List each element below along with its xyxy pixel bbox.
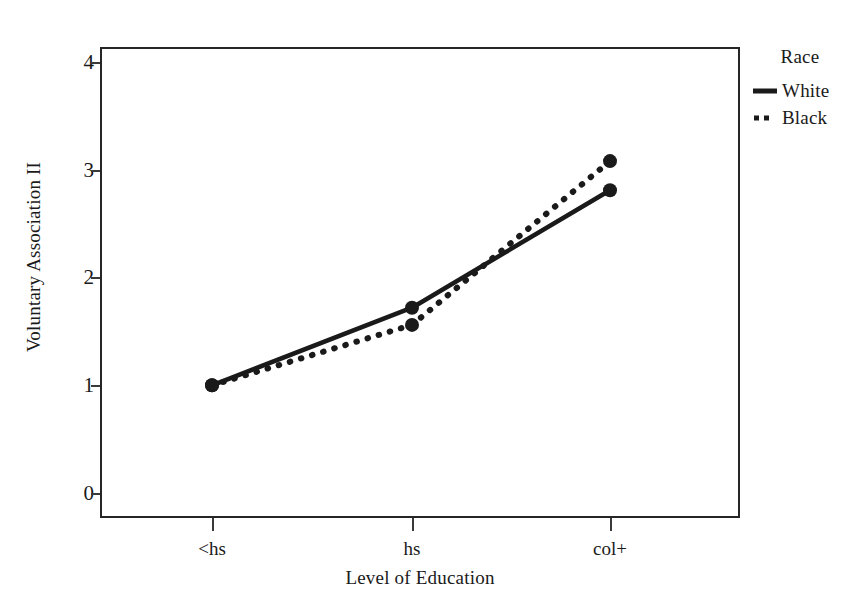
x-axis-title: Level of Education bbox=[100, 567, 740, 589]
y-tick-label-1: 1 bbox=[54, 375, 94, 396]
legend-item-white[interactable]: White bbox=[752, 77, 853, 104]
legend-label-black: Black bbox=[782, 108, 827, 127]
y-tick-label-2: 2 bbox=[54, 267, 94, 288]
legend-title: Race bbox=[752, 46, 848, 68]
x-tick-mark-hs bbox=[412, 518, 414, 531]
legend-swatch-dotted-line-icon bbox=[752, 111, 778, 125]
y-tick-mark-2 bbox=[91, 277, 100, 279]
legend: Race White Black bbox=[752, 46, 853, 131]
y-tick-mark-3 bbox=[91, 170, 100, 172]
data-point-white-hs bbox=[405, 301, 419, 315]
legend-item-black[interactable]: Black bbox=[752, 104, 853, 131]
x-tick-label-hs-less: <hs bbox=[152, 539, 272, 558]
series-line-black bbox=[212, 161, 610, 385]
y-axis-title: Voluntary Association II bbox=[23, 47, 45, 467]
y-tick-mark-0 bbox=[91, 493, 100, 495]
y-tick-label-4: 4 bbox=[54, 52, 94, 73]
chart-figure: Voluntary Association II 4 3 2 1 0 <hs h… bbox=[0, 0, 853, 616]
legend-label-white: White bbox=[782, 81, 829, 100]
x-tick-mark-col-plus bbox=[610, 518, 612, 531]
y-tick-label-0: 0 bbox=[54, 483, 94, 504]
data-point-white-col bbox=[603, 183, 617, 197]
x-tick-label-hs: hs bbox=[352, 539, 472, 558]
series-plot-layer bbox=[100, 47, 740, 518]
y-tick-label-3: 3 bbox=[54, 160, 94, 181]
data-point-black-col bbox=[603, 154, 617, 168]
data-point-black-hs bbox=[205, 378, 219, 392]
legend-swatch-solid-line-icon bbox=[752, 84, 778, 98]
x-tick-label-col-plus: col+ bbox=[550, 539, 670, 558]
data-point-black-hs bbox=[405, 318, 419, 332]
x-tick-mark-hs-less bbox=[212, 518, 214, 531]
y-tick-mark-1 bbox=[91, 385, 100, 387]
y-tick-mark-4 bbox=[91, 62, 100, 64]
series-line-white bbox=[212, 190, 610, 385]
